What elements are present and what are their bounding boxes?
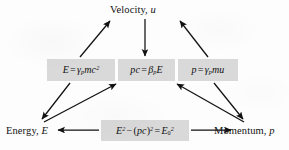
- formula-box-pc-beta: pc=βpE: [118, 59, 175, 81]
- momentum-text: Momentum,: [214, 125, 267, 136]
- arrow-energy-gamma-box-to-velocity: [80, 21, 110, 57]
- node-label-energy: Energy, E: [6, 126, 48, 137]
- energy-symbol: E: [42, 125, 49, 136]
- formula-box-energy-gamma: E=γpmc2: [47, 59, 115, 81]
- formula-box-invariant: E2−(pc)2=E02: [101, 120, 189, 141]
- energy-text: Energy,: [6, 125, 39, 136]
- formula-box-p-gamma: p=γpmu: [178, 59, 238, 81]
- formula-p-gamma: p=γpmu: [192, 65, 225, 75]
- node-label-momentum: Momentum, p: [214, 126, 275, 137]
- arrow-energy-gamma-box-to-energy: [42, 83, 70, 119]
- node-label-velocity: Velocity, u: [110, 5, 156, 16]
- arrow-p-gamma-box-to-velocity: [180, 21, 208, 57]
- formula-invariant: E2−(pc)2=E02: [116, 126, 174, 136]
- velocity-symbol: u: [151, 4, 156, 15]
- relativity-relationship-diagram: Velocity, u Energy, E Momentum, p E=γpmc…: [0, 0, 289, 150]
- arrow-momentum-to-pc-beta-box: [177, 84, 244, 122]
- formula-energy-gamma: E=γpmc2: [63, 65, 100, 75]
- formula-pc-beta: pc=βpE: [130, 65, 162, 75]
- velocity-text: Velocity,: [110, 4, 148, 15]
- momentum-symbol: p: [269, 125, 274, 136]
